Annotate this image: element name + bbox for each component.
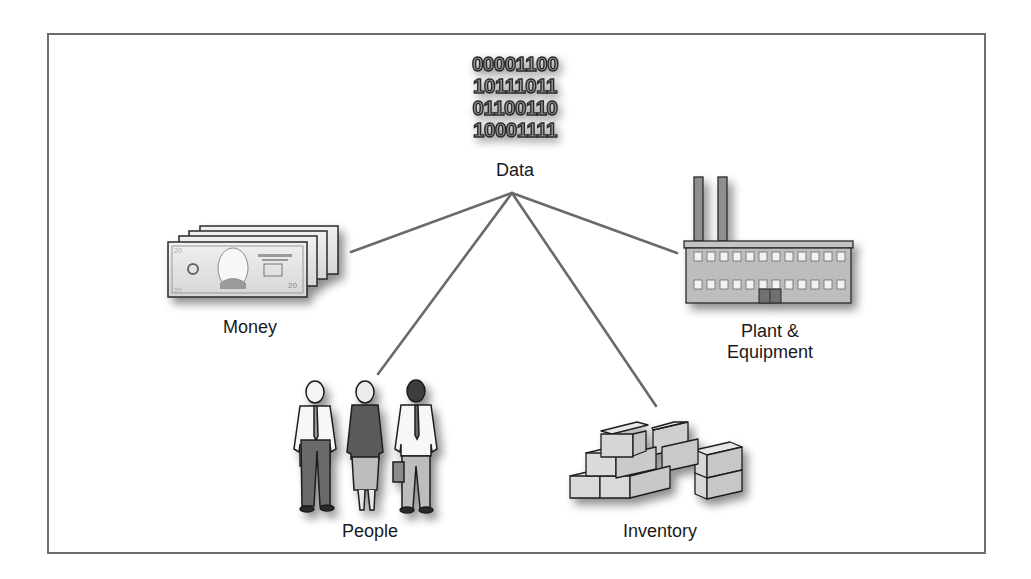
binary-row: 10111011 (449, 75, 581, 97)
label-plant-line2: Equipment (710, 342, 830, 363)
binary-row: 01100110 (449, 97, 581, 119)
label-inventory: Inventory (605, 521, 715, 542)
person-icon (393, 380, 437, 513)
svg-text:20: 20 (174, 287, 182, 294)
label-plant-line1: Plant & (720, 321, 820, 342)
binary-data-icon: 00001100 10111011 01100110 10001111 (449, 53, 581, 141)
connector-money (351, 193, 512, 252)
svg-text:20: 20 (174, 247, 182, 254)
boxes-icon (570, 422, 742, 499)
connector-people (378, 193, 512, 374)
binary-row: 10001111 (449, 119, 581, 141)
money-denomination: 20 (288, 281, 297, 290)
connector-lines (351, 193, 677, 406)
factory-icon (684, 177, 853, 303)
label-money: Money (210, 317, 290, 338)
money-stack-icon: 20 20 20 (168, 226, 338, 297)
label-data: Data (470, 160, 560, 181)
person-icon (294, 381, 336, 512)
people-group-icon (294, 380, 437, 513)
connector-plant (512, 193, 677, 253)
person-icon (347, 381, 383, 510)
connector-inventory (512, 193, 656, 406)
label-people: People (325, 521, 415, 542)
binary-row: 00001100 (449, 53, 581, 75)
